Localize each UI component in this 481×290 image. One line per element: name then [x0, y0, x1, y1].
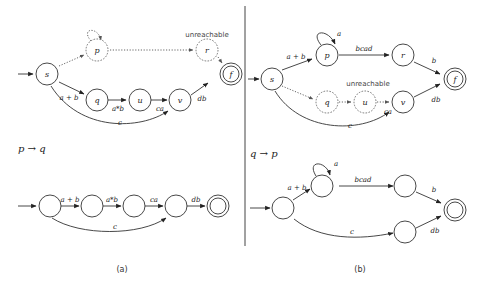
- state: [123, 195, 145, 217]
- edge-label: a + b: [288, 184, 307, 192]
- edge-loop: [313, 164, 330, 176]
- edge-s-p: [59, 55, 84, 66]
- edge-label: c: [350, 228, 354, 236]
- edge-skip: [294, 219, 393, 237]
- edge-label: a + b: [60, 94, 79, 102]
- panel-b-bottom-graph: a + b a bcad b c db: [250, 160, 466, 243]
- unreachable-annotation: unreachable: [185, 31, 228, 39]
- edge-p-loop: [317, 33, 335, 45]
- edge-label: ca: [156, 105, 164, 113]
- transform-label: p → q: [18, 143, 46, 154]
- state-label: s: [45, 70, 49, 79]
- state-label: p: [324, 51, 329, 60]
- edge-label: db: [431, 227, 440, 235]
- state-final-inner: [210, 198, 226, 214]
- edge-label: c: [118, 119, 122, 127]
- edge-r-f: [218, 57, 222, 63]
- state-label: v: [178, 96, 183, 105]
- edge-v-f: [191, 83, 208, 95]
- edge-s-q: [59, 82, 84, 94]
- edge: [416, 192, 441, 203]
- state: [39, 195, 61, 217]
- state: [311, 175, 333, 197]
- edge-label: db: [192, 196, 201, 204]
- edge-label: a: [334, 160, 338, 168]
- transform-label: q → p: [250, 148, 278, 159]
- state-label: u: [362, 98, 367, 107]
- caption-a: (a): [116, 265, 127, 274]
- edge-label: bcad: [354, 176, 372, 184]
- edge-label: c: [348, 122, 352, 130]
- state: [394, 175, 416, 197]
- edge-s-v: [51, 86, 168, 124]
- edge-label: db: [198, 95, 207, 103]
- state: [165, 195, 187, 217]
- automata-figure: s p r f q u v a + b a*b ca db c unreacha…: [0, 0, 481, 290]
- edge-label: b: [432, 186, 437, 194]
- edge-label: a*b: [106, 196, 119, 204]
- panel-a-top-graph: s p r f q u v a + b a*b ca db c unreacha…: [18, 30, 242, 127]
- state-label: q: [324, 98, 329, 107]
- state-label: v: [401, 98, 406, 107]
- panel-b-top-graph: s p r f q u v a + b a bcad b ca db c unr…: [248, 30, 466, 130]
- state-label: u: [137, 96, 142, 105]
- state-label: s: [270, 75, 274, 84]
- edge-label: bcad: [355, 45, 373, 53]
- edge-label: a + b: [61, 196, 80, 204]
- state: [81, 195, 103, 217]
- edge-label: b: [432, 57, 437, 65]
- edge-label: a: [337, 30, 341, 38]
- edge-label: db: [432, 96, 441, 104]
- edge-skip: [52, 218, 166, 232]
- state: [394, 221, 416, 243]
- edge-label: c: [113, 223, 117, 231]
- unreachable-annotation: unreachable: [346, 80, 389, 88]
- edge-s-q: [282, 86, 313, 99]
- edge-label: a*b: [112, 105, 125, 113]
- panel-a-bottom-graph: a + b a*b ca db c: [18, 195, 229, 232]
- state-final-inner: [447, 202, 463, 218]
- edge-label: a + b: [287, 53, 306, 61]
- caption-b: (b): [354, 265, 365, 274]
- edge-label: ca: [384, 108, 392, 116]
- state-label: q: [94, 96, 99, 105]
- state-label: p: [94, 46, 99, 55]
- edge-label: ca: [150, 196, 158, 204]
- state: [272, 197, 294, 219]
